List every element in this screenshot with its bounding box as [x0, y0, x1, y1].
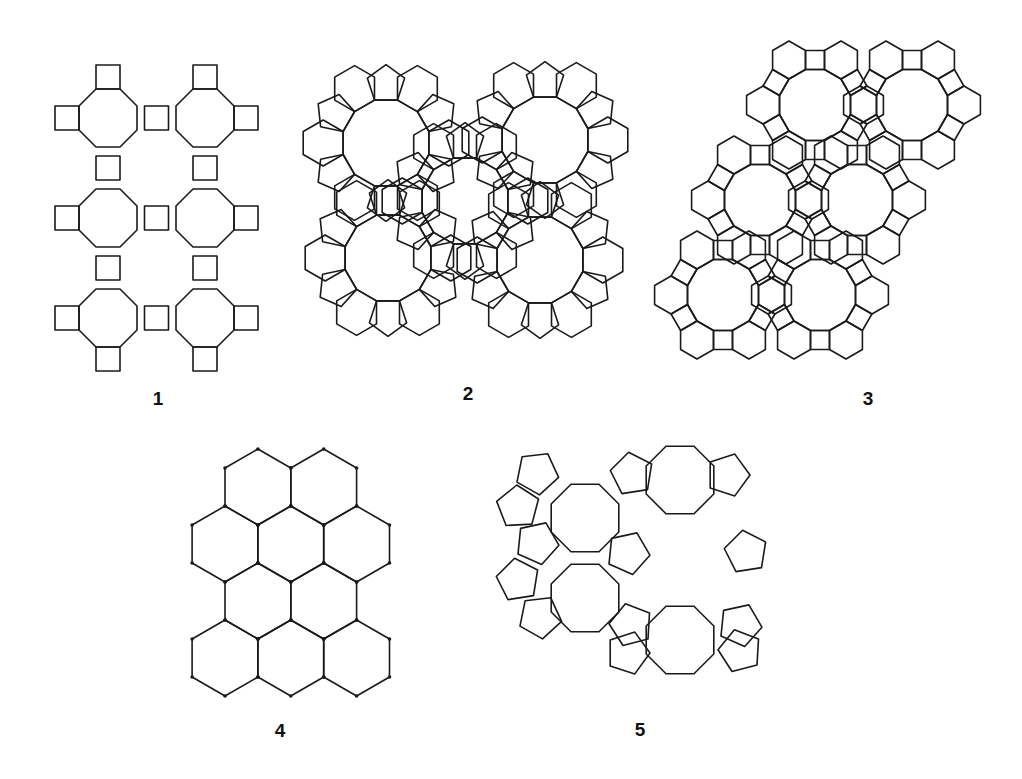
pentagon — [718, 630, 759, 672]
pentagon — [518, 523, 559, 565]
pentagon — [710, 454, 750, 496]
pentagon — [721, 605, 762, 647]
figure-label-1: 1 — [153, 389, 164, 408]
octagon — [646, 446, 714, 514]
pentagon — [496, 558, 537, 599]
pentagon — [724, 530, 765, 571]
octagon — [646, 606, 714, 674]
figure-label-4: 4 — [275, 721, 286, 740]
figure-label-5: 5 — [635, 720, 646, 739]
figure-label-2: 2 — [463, 384, 474, 403]
figure-label-3: 3 — [863, 389, 874, 408]
pentagon — [520, 598, 562, 639]
pentagon — [609, 533, 650, 575]
pentagon — [610, 632, 650, 674]
octagon — [551, 484, 619, 552]
